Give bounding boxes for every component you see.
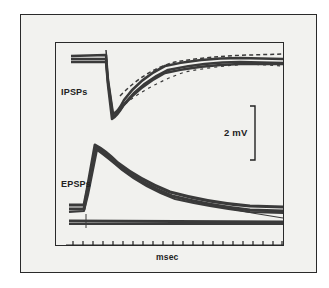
oscilloscope-traces — [0, 0, 329, 288]
scale-bar-label: 2 mV — [224, 127, 248, 138]
epsp-traces — [69, 145, 283, 218]
ipsp-label: IPSPs — [61, 87, 88, 97]
baseline-trace — [69, 214, 283, 228]
epsp-label: EPSPs — [61, 179, 91, 189]
scale-bar — [250, 106, 255, 160]
x-axis — [66, 241, 283, 245]
ipsp-traces — [71, 50, 283, 119]
x-axis-label: msec — [156, 252, 179, 262]
